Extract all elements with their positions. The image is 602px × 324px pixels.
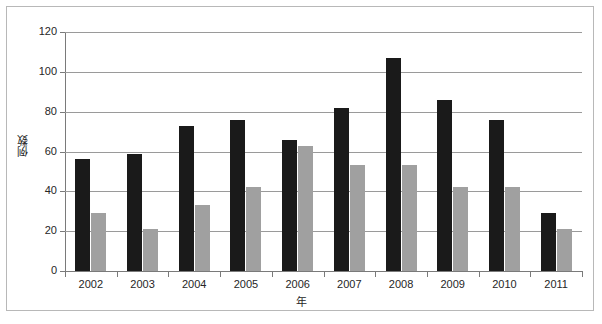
y-tick-label: 40 [11,185,57,196]
x-tick-label: 2006 [272,279,324,290]
bar-group [230,32,261,271]
x-tick-label: 2010 [479,279,531,290]
bar[interactable] [505,187,520,271]
y-tick-mark [60,152,65,153]
bar[interactable] [75,159,90,271]
y-tick-mark [60,271,65,272]
bar[interactable] [350,165,365,271]
x-tick-label: 2011 [530,279,582,290]
x-tick-label: 2004 [168,279,220,290]
bar[interactable] [489,120,504,271]
chart-frame: 例数 020406080100120 200220032004200520062… [6,6,594,311]
x-tick-mark [530,272,531,277]
x-tick-mark [272,272,273,277]
y-tick-label: 20 [11,225,57,236]
x-tick-mark [220,272,221,277]
y-tick-mark [60,112,65,113]
y-tick-label: 60 [11,146,57,157]
y-tick-label: 120 [11,26,57,37]
y-tick-mark [60,191,65,192]
bar[interactable] [541,213,556,271]
bar[interactable] [127,154,142,272]
x-tick-mark [117,272,118,277]
x-tick-mark [168,272,169,277]
bar[interactable] [143,229,158,271]
x-axis-title: 年 [7,293,595,309]
bar-group [179,32,210,271]
bar[interactable] [230,120,245,271]
plot-area [65,32,582,271]
x-tick-mark [427,272,428,277]
bar-group [541,32,572,271]
bar[interactable] [453,187,468,271]
bar-group [282,32,313,271]
bar[interactable] [179,126,194,271]
x-tick-mark [479,272,480,277]
bar-group [489,32,520,271]
bar[interactable] [246,187,261,271]
bar[interactable] [557,229,572,271]
x-tick-label: 2003 [117,279,169,290]
bar[interactable] [334,108,349,271]
y-tick-mark [60,72,65,73]
bar-group [75,32,106,271]
bar-group [437,32,468,271]
bar[interactable] [282,140,297,271]
y-tick-label: 100 [11,66,57,77]
bar-group [334,32,365,271]
y-axis-tick-labels: 020406080100120 [7,7,57,310]
bar[interactable] [195,205,210,271]
bar[interactable] [386,58,401,271]
bar[interactable] [91,213,106,271]
bar[interactable] [402,165,417,271]
bar[interactable] [437,100,452,271]
bar-group [127,32,158,271]
y-tick-mark [60,231,65,232]
x-tick-label: 2002 [65,279,117,290]
y-tick-label: 80 [11,106,57,117]
x-tick-label: 2007 [324,279,376,290]
bar[interactable] [298,146,313,271]
x-tick-label: 2009 [427,279,479,290]
y-tick-mark [60,32,65,33]
x-tick-mark [324,272,325,277]
x-tick-label: 2005 [220,279,272,290]
x-tick-mark [65,272,66,277]
x-tick-mark [582,272,583,277]
bar-group [386,32,417,271]
x-tick-mark [375,272,376,277]
y-tick-label: 0 [11,265,57,276]
x-tick-label: 2008 [375,279,427,290]
